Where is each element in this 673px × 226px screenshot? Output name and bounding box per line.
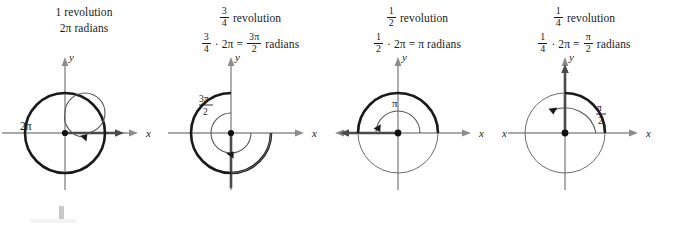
figure-root: 1 revolution 2π radians <box>0 0 673 226</box>
diagram-quarter-revolution: x x y π 2 <box>500 48 668 208</box>
x-axis-label: x <box>645 127 651 139</box>
fraction-three-fourths: 3 4 <box>220 6 229 28</box>
angle-arrowhead <box>549 108 558 115</box>
x-axis-label: x <box>478 127 484 139</box>
diagram-one-revolution: x y 2π <box>0 48 168 208</box>
y-axis-label: y <box>401 51 407 63</box>
fraction-one-fourth: 1 4 <box>554 6 563 28</box>
scan-artifact-mark <box>59 206 64 220</box>
fraction-numerator: 3 <box>202 32 211 44</box>
fraction-numerator: 3 <box>220 6 229 18</box>
fraction-numerator: 3π <box>247 32 261 44</box>
scan-artifact-smudge <box>30 219 76 223</box>
terminal-ray-positive-y <box>561 64 569 133</box>
origin-point <box>228 130 234 136</box>
fraction-numerator: π <box>584 32 593 44</box>
caption-text: revolution <box>567 12 615 24</box>
y-axis-label: y <box>568 51 574 63</box>
origin-point <box>62 130 68 136</box>
revolution-arc <box>565 93 605 133</box>
fraction-denominator: 4 <box>554 18 563 29</box>
fraction-numerator: 1 <box>374 32 383 44</box>
origin-point <box>562 130 569 137</box>
caption-line-1: 1 2 revolution <box>333 6 501 29</box>
y-axis-label: y <box>68 51 74 63</box>
panel-one-revolution: 1 revolution 2π radians <box>0 0 168 210</box>
caption-line-1: 1 4 revolution <box>500 6 668 29</box>
caption-line-1: 1 revolution <box>0 6 168 19</box>
x-axis-label: x <box>145 127 151 139</box>
fraction-numerator: 1 <box>538 32 547 44</box>
panel-half-revolution: 1 2 revolution 1 2 · 2π = π radians <box>333 0 501 210</box>
panel-three-quarter-revolution: 3 4 revolution 3 4 · 2π = 3π 2 radians <box>166 0 334 210</box>
angle-label-numerator: 3π <box>199 94 209 104</box>
fraction-numerator: 1 <box>387 6 396 18</box>
y-axis <box>395 57 402 190</box>
angle-label-numerator: π <box>597 103 602 113</box>
fraction-denominator: 4 <box>220 18 229 29</box>
caption-line-2: 2π radians <box>0 22 168 34</box>
y-axis-label: y <box>234 51 240 63</box>
angle-arrowhead <box>80 134 87 141</box>
angle-sweep-arc <box>552 108 596 133</box>
angle-label-denominator: 2 <box>203 107 208 117</box>
fraction-numerator: 1 <box>554 6 563 18</box>
caption-text: revolution <box>400 12 448 24</box>
angle-label: π <box>392 97 398 109</box>
caption-line-1: 3 4 revolution <box>166 6 334 29</box>
x-axis-label-left: x <box>501 127 507 139</box>
caption-one-revolution: 1 revolution 2π radians <box>0 6 168 37</box>
panel-quarter-revolution: 1 4 revolution 1 4 · 2π = π 2 radians <box>500 0 668 210</box>
terminal-ray-negative-x <box>340 129 398 137</box>
fraction-denominator: 2 <box>387 18 396 29</box>
caption-text: revolution <box>233 12 281 24</box>
diagram-half-revolution: x y π <box>333 48 501 208</box>
diagram-three-quarter-revolution: x y 3π 2 <box>166 48 334 208</box>
origin-point <box>395 130 402 137</box>
fraction-one-half: 1 2 <box>387 6 396 28</box>
angle-label-denominator: 2 <box>598 116 603 126</box>
angle-label: 2π <box>20 120 32 132</box>
x-axis-label: x <box>311 127 317 139</box>
